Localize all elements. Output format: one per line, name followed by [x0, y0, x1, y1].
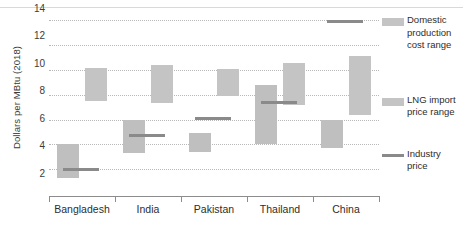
- lng-price-bar-bangladesh: [85, 68, 107, 101]
- plot-area: [49, 8, 379, 194]
- y-tick-14: 14: [15, 3, 45, 14]
- legend-spacer-a: [382, 54, 463, 94]
- x-tick-2: [181, 196, 182, 202]
- industry-price-line-thailand: [261, 101, 297, 104]
- legend-item-domestic: Domestic production cost range: [382, 14, 463, 52]
- domestic-cost-bar-bangladesh: [57, 144, 79, 177]
- domestic-cost-bar-china: [321, 120, 343, 149]
- industry-price-line-china: [327, 20, 363, 23]
- chart-legend: Domestic production cost range LNG impor…: [382, 14, 463, 175]
- lng-price-bar-china: [349, 56, 371, 114]
- x-label-india: India: [115, 203, 181, 215]
- legend-item-lng: LNG import price range: [382, 94, 463, 119]
- y-tick-4: 4: [15, 140, 45, 151]
- legend-label-industry: Industry price: [407, 148, 463, 173]
- domestic-cost-bar-pakistan: [189, 133, 211, 152]
- y-tick-6: 6: [15, 113, 45, 124]
- legend-swatch-lng-icon: [382, 98, 404, 106]
- x-tick-3: [247, 196, 248, 202]
- x-tick-5: [379, 196, 380, 202]
- industry-price-line-india: [129, 134, 165, 137]
- legend-label-domestic: Domestic production cost range: [407, 14, 463, 52]
- x-label-bangladesh: Bangladesh: [49, 203, 115, 215]
- legend-swatch-domestic-icon: [382, 18, 404, 26]
- y-tick-10: 10: [15, 58, 45, 69]
- legend-item-industry: Industry price: [382, 148, 463, 173]
- industry-price-line-pakistan: [195, 117, 231, 120]
- x-tick-4: [313, 196, 314, 202]
- industry-price-line-bangladesh: [63, 168, 99, 171]
- x-axis-line: [49, 196, 379, 197]
- legend-swatch-industry-line-icon: [382, 154, 404, 157]
- legend-spacer-b: [382, 121, 463, 148]
- y-tick-2: 2: [15, 168, 45, 179]
- y-tick-8: 8: [15, 85, 45, 96]
- legend-label-lng: LNG import price range: [407, 94, 463, 119]
- chart-container: Dollars per MBtu (2018) 14 12 10 8 6 4 2…: [0, 0, 463, 232]
- y-axis-tick-labels: 14 12 10 8 6 4 2: [13, 8, 45, 194]
- domestic-cost-bar-thailand: [255, 85, 277, 145]
- lng-price-bar-thailand: [283, 63, 305, 105]
- x-label-pakistan: Pakistan: [181, 203, 247, 215]
- y-tick-12: 12: [15, 30, 45, 41]
- x-tick-1: [115, 196, 116, 202]
- gridline-12: [49, 45, 379, 46]
- x-label-china: China: [313, 203, 379, 215]
- x-label-thailand: Thailand: [247, 203, 313, 215]
- x-tick-0: [49, 196, 50, 202]
- lng-price-bar-india: [151, 65, 173, 103]
- lng-price-bar-pakistan: [217, 69, 239, 96]
